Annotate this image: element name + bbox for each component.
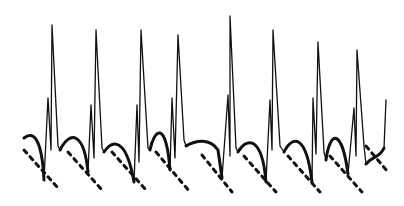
- spike-traces: [44, 16, 386, 182]
- dashed-guides: [24, 146, 388, 192]
- ecg-waveform-figure: [0, 0, 404, 206]
